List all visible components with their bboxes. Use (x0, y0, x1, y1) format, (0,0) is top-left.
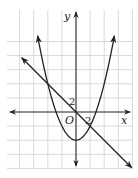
origin-label: O (65, 114, 74, 127)
graph: y x O 2 2 (0, 0, 138, 178)
x-tick-label: 2 (85, 115, 91, 126)
x-axis-label: x (121, 114, 128, 127)
grid (7, 10, 132, 169)
y-tick-label: 2 (69, 96, 75, 107)
line-curve (22, 58, 132, 168)
y-axis-label: y (63, 10, 71, 23)
